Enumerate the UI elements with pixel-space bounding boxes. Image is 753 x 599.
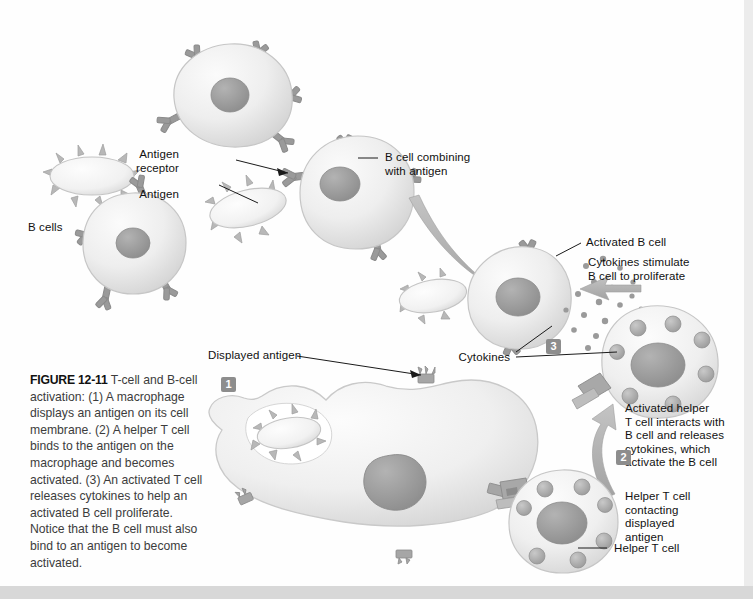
antigen-bound-center — [205, 175, 290, 243]
label-antigen: Antigen — [129, 188, 179, 202]
macrophage — [209, 366, 538, 564]
step-badge-2: 2 — [616, 450, 631, 465]
label-activated-b-cell: Activated B cell — [586, 236, 666, 250]
figure-caption: FIGURE 12-11 T-cell and B-cell activatio… — [30, 372, 206, 571]
label-b-cells: B cells — [28, 221, 63, 235]
label-cytokines: Cytokines — [446, 351, 510, 365]
figure-caption-text: T-cell and B-cell activation: (1) A macr… — [30, 373, 202, 570]
b-cell-top — [154, 39, 303, 155]
step-badge-3: 3 — [546, 339, 561, 354]
helper-t-cell — [496, 470, 618, 573]
label-b-cell-combining: B cell combining with antigen — [385, 151, 470, 178]
antigen-bound-activated — [397, 268, 470, 324]
figure-number: FIGURE 12-11 — [30, 373, 108, 387]
activated-b-cell — [397, 238, 571, 356]
page-bottom-band — [0, 586, 753, 599]
step-badge-1: 1 — [221, 377, 236, 392]
label-helper-t-contacting: Helper T cell contacting displayed antig… — [625, 490, 690, 544]
label-antigen-receptor: Antigen receptor — [119, 148, 179, 175]
label-displayed-antigen: Displayed antigen — [208, 349, 301, 363]
figure-12-11: Antigen receptor Antigen B cells B cell … — [0, 0, 753, 599]
label-cytokines-stimulate: Cytokines stimulate B cell to proliferat… — [588, 256, 690, 283]
label-helper-t-cell: Helper T cell — [614, 542, 679, 556]
label-activated-helper: Activated helper T cell interacts with B… — [625, 402, 725, 470]
page-edge-shadow — [744, 0, 753, 586]
